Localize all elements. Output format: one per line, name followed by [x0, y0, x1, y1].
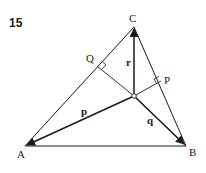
- origin-point: [132, 94, 137, 99]
- side-cb: [134, 27, 186, 146]
- label-vector-q: q: [147, 114, 154, 126]
- vector-q: [134, 96, 184, 144]
- label-vector-r: r: [126, 56, 131, 68]
- figure-number: 15: [9, 16, 23, 30]
- label-c: C: [129, 12, 136, 24]
- vector-p: [27, 96, 134, 145]
- label-b: B: [189, 146, 196, 158]
- segment-op: [134, 81, 161, 96]
- label-p: P: [164, 74, 170, 86]
- label-vector-p: p: [81, 105, 87, 117]
- label-a: A: [17, 148, 25, 160]
- segment-oq: [97, 66, 134, 96]
- label-q: Q: [86, 52, 94, 64]
- triangle-abc: [25, 27, 186, 146]
- triangle-diagram: 15 C A B Q P r p q: [0, 0, 206, 173]
- side-ac: [25, 27, 134, 146]
